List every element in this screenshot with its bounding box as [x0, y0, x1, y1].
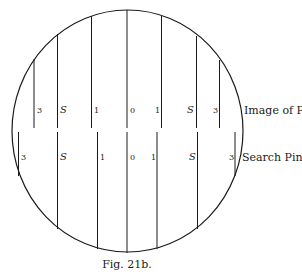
image-of-p-text: Image of P — [244, 104, 302, 117]
image-tick-label: 1 — [155, 106, 160, 115]
search-pin-label: Search Pin — [242, 151, 302, 164]
pin-tick-label: 3 — [21, 153, 26, 162]
field-of-view-diagram: 3 S 1 0 1 S 3 3 S 1 0 1 S 3 Image of P0 … — [0, 0, 302, 275]
figure-caption: Fig. 21b. — [102, 258, 152, 271]
pin-tick-label: S — [60, 151, 67, 162]
image-tick-label: S — [60, 104, 67, 115]
image-tick-label: 3 — [37, 106, 42, 115]
image-tick-label: 3 — [213, 106, 218, 115]
image-tick-label: 0 — [130, 106, 135, 115]
search-pin-scale-lines — [19, 132, 236, 253]
pin-tick-label: S — [189, 151, 196, 162]
pin-tick-label: 1 — [100, 153, 105, 162]
pin-tick-label: 3 — [229, 153, 234, 162]
image-tick-label: S — [187, 104, 194, 115]
image-of-p0-label: Image of P0 — [244, 104, 302, 119]
pin-tick-label: 0 — [130, 153, 135, 162]
pin-tick-label: 1 — [151, 153, 156, 162]
image-tick-label: 1 — [94, 106, 99, 115]
